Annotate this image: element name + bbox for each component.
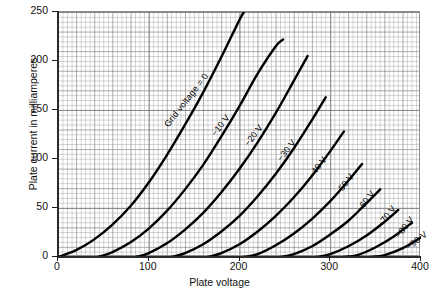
curve-layer [58, 12, 421, 257]
y-tick-label-200: 200 [0, 53, 48, 65]
y-tick-150 [52, 109, 57, 110]
y-tick-0 [52, 256, 57, 257]
y-tick-250 [52, 11, 57, 12]
y-tick-label-150: 150 [0, 102, 48, 114]
x-tick-label-300: 300 [299, 260, 359, 272]
x-tick-label-0: 0 [27, 260, 87, 272]
plate-characteristic-chart: 0100200300400 050100150200250 Grid volta… [0, 0, 439, 295]
y-tick-label-100: 100 [0, 151, 48, 163]
y-tick-200 [52, 60, 57, 61]
plot-area [57, 11, 420, 256]
x-tick-label-100: 100 [118, 260, 178, 272]
y-axis-spine [57, 11, 59, 257]
y-tick-label-50: 50 [0, 200, 48, 212]
x-axis-title: Plate voltage [0, 276, 439, 288]
y-tick-100 [52, 158, 57, 159]
y-axis-title: Plate current in milliamperes [27, 29, 39, 219]
x-tick-label-200: 200 [209, 260, 269, 272]
y-tick-50 [52, 207, 57, 208]
y-tick-label-0: 0 [0, 249, 48, 261]
x-tick-label-400: 400 [390, 260, 439, 272]
y-tick-label-250: 250 [0, 4, 48, 16]
